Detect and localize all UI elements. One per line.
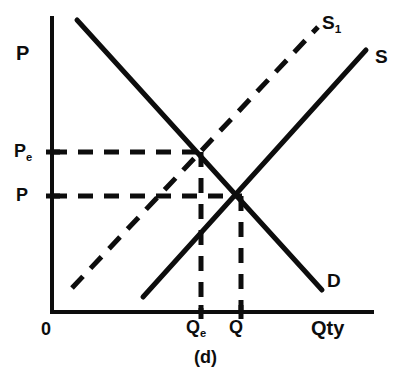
- x-axis-label: Qty: [311, 318, 344, 338]
- y-axis-label: P: [16, 43, 29, 63]
- curve-label-supply-shifted: S1: [322, 13, 341, 32]
- price-tick-label-pe: Pe: [14, 142, 32, 160]
- supply-curve-shifted: [72, 27, 318, 288]
- quantity-tick-qe-subscript: e: [200, 327, 206, 339]
- quantity-tick-label-q: Q: [229, 318, 243, 336]
- curve-label-supply-shifted-subscript: 1: [335, 22, 342, 35]
- quantity-tick-label-qe: Qe: [186, 318, 206, 336]
- supply-curve: [143, 50, 366, 297]
- curve-label-supply-shifted-base: S: [322, 12, 335, 33]
- curve-label-supply: S: [375, 47, 388, 66]
- price-tick-pe-base: P: [14, 141, 26, 161]
- price-tick-pe-subscript: e: [26, 151, 32, 163]
- figure-caption: (d): [194, 348, 217, 366]
- supply-demand-figure: P Pe P S1 S D 0 Qe Q Qty (d): [0, 0, 407, 382]
- quantity-tick-qe-base: Q: [186, 317, 200, 337]
- price-tick-label-p: P: [16, 186, 28, 204]
- curve-label-demand: D: [327, 271, 341, 290]
- origin-label: 0: [41, 320, 51, 338]
